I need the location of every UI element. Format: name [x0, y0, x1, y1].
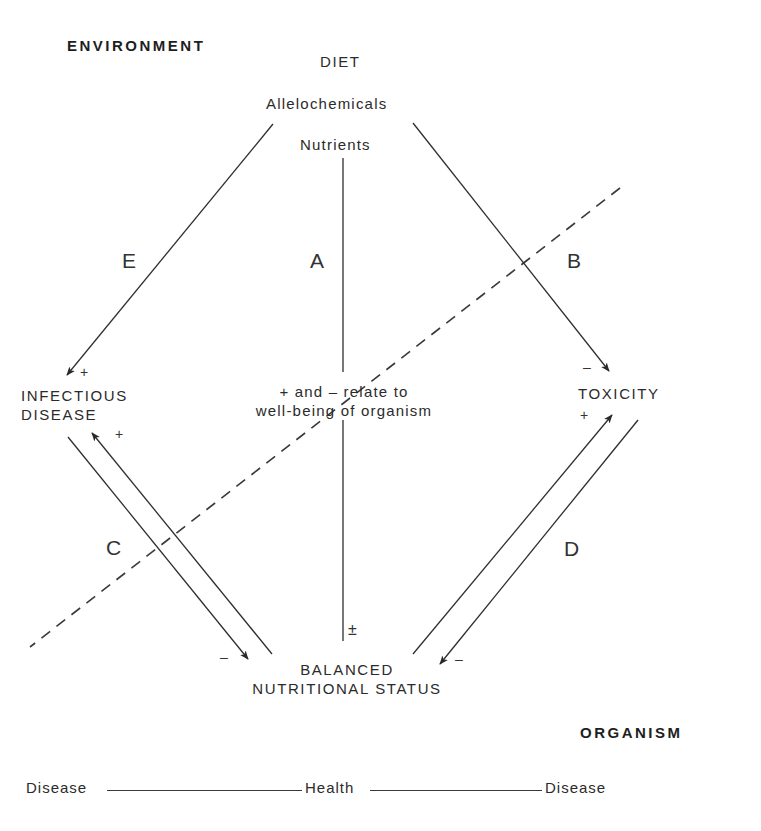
center-note-line1: + and – relate to — [228, 382, 460, 401]
sign-toxicity-top: – — [583, 359, 591, 375]
pathway-label-a: A — [310, 249, 324, 273]
organism-heading: ORGANISM — [580, 724, 683, 741]
sign-infectious-bottom: + — [115, 426, 123, 442]
scale-health: Health — [305, 779, 354, 796]
edge-c-down-arrow — [68, 437, 248, 659]
environment-heading: ENVIRONMENT — [67, 37, 205, 54]
scale-rule-right — [370, 790, 542, 791]
edge-d-down-arrow — [440, 420, 638, 664]
edge-d-up-arrow — [413, 415, 612, 654]
scale-right-disease: Disease — [545, 779, 606, 796]
sign-balanced-left: – — [220, 649, 228, 665]
nutrients-label: Nutrients — [300, 135, 371, 154]
sign-balanced-right: – — [455, 651, 463, 667]
health-disease-scale: Disease Health Disease — [0, 779, 761, 799]
sign-balanced-center: ± — [348, 621, 357, 639]
sign-infectious-top: + — [80, 364, 88, 380]
center-note-line2: well-being of organism — [228, 401, 460, 420]
diet-title: DIET — [320, 52, 361, 71]
toxicity-node: TOXICITY — [578, 384, 660, 403]
diet-organism-diagram: ENVIRONMENT ORGANISM DIET Allelochemical… — [0, 0, 761, 831]
edge-b-arrow — [413, 123, 609, 371]
balanced-line2: NUTRITIONAL STATUS — [222, 679, 472, 698]
scale-rule-left — [107, 790, 302, 791]
scale-left-disease: Disease — [26, 779, 87, 796]
balanced-nutritional-status-node: BALANCED NUTRITIONAL STATUS — [222, 660, 472, 698]
infectious-disease-node: INFECTIOUS DISEASE — [21, 386, 128, 424]
pathway-label-d: D — [564, 537, 579, 561]
edge-e-arrow — [67, 124, 273, 375]
infectious-disease-line2: DISEASE — [21, 405, 128, 424]
pathway-label-b: B — [567, 249, 581, 273]
center-note: + and – relate to well-being of organism — [228, 382, 460, 420]
allelochemicals-label: Allelochemicals — [266, 94, 387, 113]
pathway-label-c: C — [106, 536, 121, 560]
sign-toxicity-bottom: + — [580, 407, 588, 423]
pathway-label-e: E — [122, 249, 136, 273]
balanced-line1: BALANCED — [222, 660, 472, 679]
infectious-disease-line1: INFECTIOUS — [21, 386, 128, 405]
